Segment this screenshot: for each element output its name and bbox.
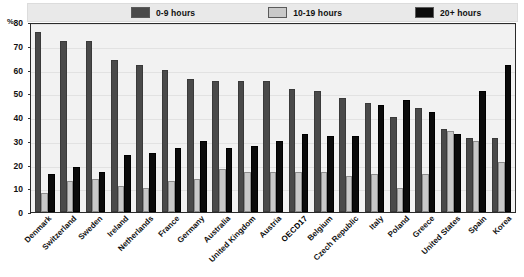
bar (251, 146, 258, 213)
bar-group (438, 24, 463, 212)
bar (67, 181, 74, 212)
bar (168, 181, 175, 212)
bar-group (387, 24, 412, 212)
bar (390, 117, 397, 212)
bar-group (463, 24, 488, 212)
bar (378, 105, 385, 212)
x-axis-label-italy: Italy (368, 214, 386, 232)
bar (441, 129, 448, 212)
legend-swatch-dark-gray (131, 7, 150, 18)
bar (346, 176, 353, 212)
y-axis-tick-20: 20 (0, 161, 23, 171)
bar-group (235, 24, 260, 212)
bar-group (286, 24, 311, 212)
bar-group (337, 24, 362, 212)
bar (143, 188, 150, 212)
bar (314, 91, 321, 212)
bar-group (108, 24, 133, 212)
legend-swatch-black (415, 7, 434, 18)
bar (339, 98, 346, 212)
bar (136, 65, 143, 212)
y-axis-tick-80: 80 (0, 18, 23, 28)
bar (48, 174, 55, 212)
bar (270, 172, 277, 212)
bar (371, 174, 378, 212)
x-axis-category-labels: DenmarkSwitzerlandSwedenIrelandNetherlan… (30, 214, 516, 277)
bar (492, 138, 499, 212)
bar (505, 65, 512, 212)
y-axis-tick-0: 0 (0, 208, 23, 218)
bar (422, 174, 429, 212)
legend-item-10-19-hours: 10-19 hours (268, 4, 342, 21)
bar (41, 193, 48, 212)
bar-group (311, 24, 336, 212)
y-axis-tick-50: 50 (0, 89, 23, 99)
bar (276, 141, 283, 212)
bar (86, 41, 93, 212)
bar (187, 79, 194, 212)
bar (302, 134, 309, 212)
bar (92, 179, 99, 212)
chart-figure: 0-9 hours 10-19 hours 20+ hours % 807060… (0, 0, 524, 277)
legend-item-20-plus-hours: 20+ hours (415, 4, 481, 21)
x-axis-label-spain: Spain (466, 214, 488, 236)
bar (415, 108, 422, 213)
x-axis-label-united-kingdom: United Kingdom (208, 214, 258, 264)
legend-item-0-9-hours: 0-9 hours (131, 4, 195, 21)
bar (99, 172, 106, 212)
bar-group (83, 24, 108, 212)
x-axis-label-poland: Poland (386, 214, 411, 239)
bar-group (159, 24, 184, 212)
bar (200, 141, 207, 212)
legend-label-20-plus-hours: 20+ hours (440, 8, 481, 18)
x-axis-label-korea: Korea (491, 214, 513, 236)
bar (60, 41, 67, 212)
legend-swatch-light-gray (268, 7, 287, 18)
bar (473, 141, 480, 212)
bar (327, 136, 334, 212)
bar (212, 81, 219, 212)
legend-label-10-19-hours: 10-19 hours (293, 8, 342, 18)
x-axis-label-sweden: Sweden (77, 214, 105, 242)
bar (263, 81, 270, 212)
bar (352, 136, 359, 212)
bar (162, 70, 169, 213)
bar (479, 91, 486, 212)
x-axis-label-oecd17: OECD17 (279, 214, 309, 244)
y-axis-tick-60: 60 (0, 66, 23, 76)
bar-group (32, 24, 57, 212)
bar (149, 153, 156, 212)
bar (403, 100, 410, 212)
bar (454, 134, 461, 212)
bar-group (260, 24, 285, 212)
bar (118, 186, 125, 212)
bar (466, 138, 473, 212)
bar-group (210, 24, 235, 212)
bar (226, 148, 233, 212)
bar (73, 167, 80, 212)
y-axis-tick-10: 10 (0, 184, 23, 194)
bar (397, 188, 404, 212)
bar (111, 60, 118, 212)
bar (219, 169, 226, 212)
chart-legend: 0-9 hours 10-19 hours 20+ hours (27, 3, 518, 22)
bar-group (489, 24, 514, 212)
bar (124, 155, 131, 212)
bar (498, 162, 505, 212)
bar (175, 148, 182, 212)
bar-group (362, 24, 387, 212)
bar-groups (31, 24, 515, 212)
y-axis-tick-70: 70 (0, 42, 23, 52)
bar (321, 172, 328, 212)
bar-group (413, 24, 438, 212)
plot-area (30, 23, 516, 213)
bar (295, 172, 302, 212)
y-axis-tick-30: 30 (0, 137, 23, 147)
bar-group (184, 24, 209, 212)
bar (365, 103, 372, 212)
bar (35, 32, 42, 213)
bar (429, 112, 436, 212)
bar (447, 131, 454, 212)
bar-group (57, 24, 82, 212)
bar (238, 81, 245, 212)
